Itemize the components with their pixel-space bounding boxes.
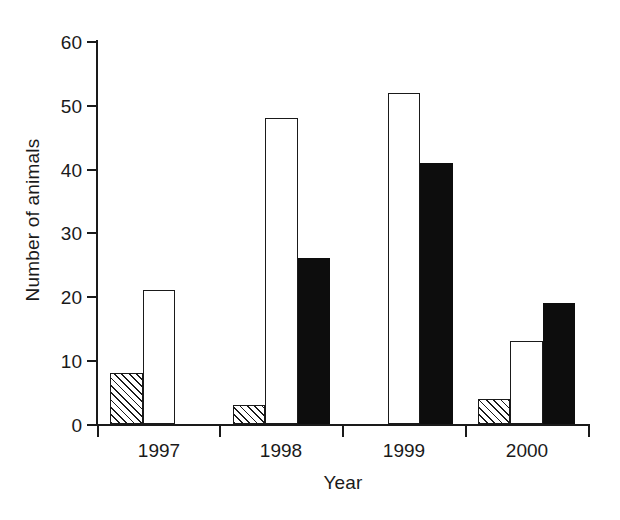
bar-1998-black [298,258,331,424]
bar-chart-figure: Number of animals 60 50 40 30 20 10 0 19… [0,0,620,520]
bar-1999-black [420,163,453,424]
bar-1998-hatched [233,405,266,424]
bar-1999-white [388,93,421,424]
bar-1998-white [265,118,298,424]
bars-layer [0,0,620,520]
bar-2000-hatched [478,399,511,424]
bar-2000-black [543,303,576,424]
bar-1997-hatched [110,373,143,424]
x-axis-title: Year [98,472,588,494]
bar-2000-white [510,341,543,424]
bar-1997-white [143,290,176,424]
